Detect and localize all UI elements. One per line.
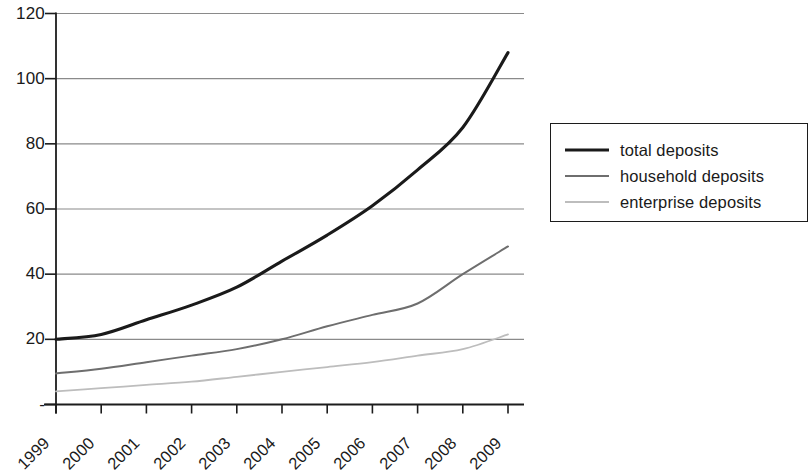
legend-line-icon: [565, 196, 609, 208]
legend-label: household deposits: [620, 167, 764, 186]
series-line-total-deposits: [56, 53, 508, 340]
y-tick-label: 80: [0, 135, 45, 152]
legend-item: total deposits: [565, 137, 719, 163]
legend-label: total deposits: [620, 141, 719, 160]
legend-item: enterprise deposits: [565, 189, 761, 215]
gridlines: [56, 14, 524, 340]
y-tick-label: 40: [0, 265, 45, 282]
legend-line-icon: [565, 144, 609, 156]
axis-lines: [44, 13, 524, 414]
y-tick-label: 100: [0, 70, 45, 87]
data-series-group: [56, 53, 508, 392]
series-line-enterprise-deposits: [56, 334, 508, 391]
chart-legend: total depositshousehold depositsenterpri…: [550, 123, 808, 222]
legend-item: household deposits: [565, 163, 764, 189]
series-line-household-deposits: [56, 246, 508, 373]
legend-label: enterprise deposits: [620, 193, 761, 212]
y-tick-label: 60: [0, 200, 45, 217]
legend-line-icon: [565, 170, 609, 182]
y-tick-label: 120: [0, 5, 45, 22]
y-tick-label: -: [0, 396, 45, 413]
y-tick-label: 20: [0, 330, 45, 347]
